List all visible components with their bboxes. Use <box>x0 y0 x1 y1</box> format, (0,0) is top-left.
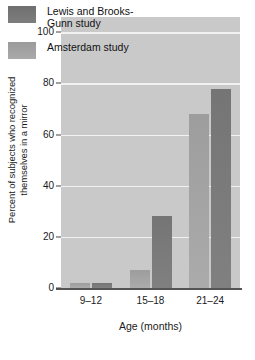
legend-item-amsterdam: Amsterdam study <box>8 41 180 59</box>
x-axis-title: Age (months) <box>61 320 240 332</box>
chart-legend: Lewis and Brooks- Gunn study Amsterdam s… <box>8 5 180 71</box>
legend-label-amsterdam: Amsterdam study <box>47 41 129 53</box>
x-axis-tick-labels: 9–1215–1821–24 <box>61 295 240 309</box>
y-tick-label-60: 60 <box>32 130 54 140</box>
legend-label-lewis-brooks-gunn-line2: Gunn study <box>47 17 101 29</box>
y-tick-label-40: 40 <box>32 181 54 191</box>
gridline-80 <box>61 83 240 85</box>
y-axis-title-line2: themselves in a mirror <box>17 77 29 224</box>
y-axis-title-line1: Percent of subjects who recognized <box>6 77 18 224</box>
x-tick-label-2: 21–24 <box>196 295 224 307</box>
y-tick-mark-40 <box>56 185 61 186</box>
y-tick-label-0: 0 <box>32 283 54 293</box>
y-tick-label-80: 80 <box>32 78 54 88</box>
x-axis-line <box>56 288 242 290</box>
y-tick-label-20: 20 <box>32 232 54 242</box>
x-tick-label-0: 9–12 <box>80 295 102 307</box>
legend-swatch-lewis-brooks-gunn-icon <box>8 6 36 23</box>
legend-item-lewis-brooks-gunn: Lewis and Brooks- Gunn study <box>8 5 180 29</box>
y-tick-mark-80 <box>56 83 61 84</box>
x-tick-label-1: 15–18 <box>137 295 165 307</box>
bar <box>189 114 209 288</box>
legend-label-lewis-brooks-gunn-line1: Lewis and Brooks- <box>47 5 133 17</box>
y-tick-mark-20 <box>56 236 61 237</box>
bar <box>152 216 172 288</box>
y-tick-mark-0 <box>56 288 61 289</box>
y-tick-mark-100 <box>56 32 61 33</box>
bar <box>130 270 150 288</box>
chart-figure: Percent of subjects who recognized thems… <box>0 0 255 360</box>
legend-swatch-amsterdam-icon <box>8 42 36 59</box>
bar <box>211 89 231 288</box>
y-tick-mark-60 <box>56 134 61 135</box>
